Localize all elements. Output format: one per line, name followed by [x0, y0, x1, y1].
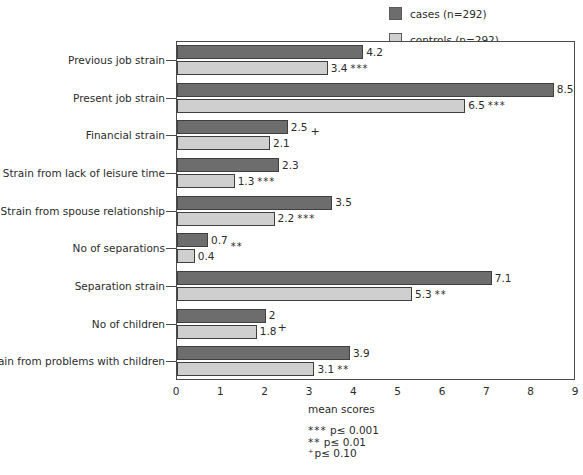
significance-marker: ***: [297, 213, 315, 224]
bar-controls[interactable]: [177, 61, 328, 75]
bar-value-controls: 6.5***: [468, 100, 506, 111]
bar-value-cases: 8.5: [557, 84, 574, 95]
figure-panel: cases (n=292) controls (n=292) Previous …: [0, 0, 583, 475]
bar-group-controls: 1.8+: [177, 325, 288, 339]
x-axis: 0123456789: [176, 381, 575, 401]
bar-controls[interactable]: [177, 136, 270, 150]
y-axis-label: Strain from spouse relationship: [0, 205, 165, 217]
chart-row: 8.56.5***: [177, 80, 574, 118]
x-axis-title: mean scores: [176, 403, 575, 415]
bar-group-controls: 0.4: [177, 249, 214, 263]
bar-group-controls: 3.4***: [177, 61, 368, 75]
footnote-text: p≤ 0.001: [327, 424, 379, 436]
bar-group-controls: 5.3**: [177, 287, 447, 301]
bar-group-controls: 2.1: [177, 136, 290, 150]
bar-cases[interactable]: [177, 83, 554, 97]
bar-value-cases: 2.3: [282, 160, 299, 171]
significance-marker: +: [278, 321, 288, 334]
bar-controls[interactable]: [177, 325, 257, 339]
bar-value-cases: 7.1: [495, 273, 512, 284]
bar-cases[interactable]: [177, 233, 208, 247]
x-axis-tick-label: 5: [394, 385, 401, 397]
bar-value-cases: 4.2: [366, 47, 383, 58]
footnote-stars: ***: [308, 424, 327, 436]
bar-cases[interactable]: [177, 309, 266, 323]
x-axis-tick-label: 3: [306, 385, 313, 397]
legend-item-cases: cases (n=292): [389, 4, 579, 23]
bar-cases[interactable]: [177, 196, 332, 210]
y-axis-label: Previous job strain: [0, 54, 165, 66]
bar-group-cases: 7.1: [177, 271, 511, 285]
footnote-stars: **: [308, 436, 321, 448]
chart-row: 2.31.3***: [177, 155, 574, 193]
bar-controls[interactable]: [177, 287, 412, 301]
y-axis-label: Present job strain: [0, 92, 165, 104]
significance-marker: ***: [488, 100, 506, 111]
x-axis-tick-label: 6: [439, 385, 446, 397]
chart-row: 2.5+2.1: [177, 117, 574, 155]
bar-group-controls: 6.5***: [177, 99, 506, 113]
footnote-line: ⁺p≤ 0.10: [308, 448, 379, 460]
bar-cases[interactable]: [177, 271, 492, 285]
x-axis-tick-label: 2: [261, 385, 268, 397]
chart-row: 3.52.2***: [177, 193, 574, 231]
y-axis-tick: [166, 60, 176, 61]
significance-marker: **: [337, 364, 349, 375]
bar-value-controls: 2.2***: [278, 213, 316, 224]
bar-value-controls: 3.4***: [331, 63, 369, 74]
bar-cases[interactable]: [177, 45, 363, 59]
legend-swatch-cases: [389, 7, 402, 20]
bar-group-controls: 2.2***: [177, 212, 315, 226]
bar-controls[interactable]: [177, 99, 465, 113]
bar-value-controls: 1.8+: [260, 326, 288, 337]
bar-group-cases: 0.7**: [177, 233, 228, 247]
y-axis-label: No of separations: [0, 242, 165, 254]
bar-controls[interactable]: [177, 174, 235, 188]
bar-group-cases: 2.3: [177, 158, 299, 172]
bar-controls[interactable]: [177, 362, 314, 376]
y-axis-label: No of children: [0, 318, 165, 330]
bar-group-cases: 4.2: [177, 45, 383, 59]
bar-group-controls: 3.1**: [177, 362, 349, 376]
y-axis-tick: [166, 173, 176, 174]
bar-group-cases: 3.9: [177, 346, 370, 360]
significance-marker: **: [435, 289, 447, 300]
bar-value-controls: 2.1: [273, 138, 290, 149]
bar-value-cases: 2: [269, 310, 276, 321]
plot-area: 4.23.4***8.56.5***2.5+2.12.31.3***3.52.2…: [176, 41, 575, 380]
bar-cases[interactable]: [177, 346, 350, 360]
bar-group-cases: 8.5: [177, 83, 574, 97]
x-axis-tick-label: 0: [173, 385, 180, 397]
y-axis-label: Strain from lack of leisure time: [0, 167, 165, 179]
y-axis-tick: [166, 135, 176, 136]
legend-label-cases: cases (n=292): [410, 8, 487, 20]
bar-value-cases: 3.9: [353, 348, 370, 359]
footnote-text: p≤ 0.01: [321, 436, 367, 448]
bar-cases[interactable]: [177, 120, 288, 134]
y-axis-label: Financial strain: [0, 129, 165, 141]
chart-row: 7.15.3**: [177, 268, 574, 306]
y-axis-label: Strain from problems with children: [0, 355, 165, 367]
x-axis-tick-label: 4: [350, 385, 357, 397]
y-axis-tick: [166, 248, 176, 249]
footnote-text: p≤ 0.10: [315, 447, 357, 459]
y-axis-tick: [166, 286, 176, 287]
y-axis-label: Separation strain: [0, 280, 165, 292]
y-axis: Previous job strainPresent job strainFin…: [0, 41, 176, 380]
significance-marker: **: [231, 241, 243, 252]
significance-marker: ***: [257, 176, 275, 187]
significance-footnotes: *** p≤ 0.001** p≤ 0.01⁺p≤ 0.10: [308, 425, 379, 460]
bar-group-controls: 1.3***: [177, 174, 275, 188]
bar-controls[interactable]: [177, 212, 275, 226]
chart-row: 0.7**0.4: [177, 230, 574, 268]
bar-cases[interactable]: [177, 158, 279, 172]
figure-caption: [8, 468, 308, 475]
y-axis-tick: [166, 98, 176, 99]
chart-row: 4.23.4***: [177, 42, 574, 80]
x-axis-tick-label: 7: [483, 385, 490, 397]
bar-controls[interactable]: [177, 249, 195, 263]
significance-marker: ***: [350, 63, 368, 74]
chart-row: 21.8+: [177, 306, 574, 344]
y-axis-tick: [166, 361, 176, 362]
x-axis-tick-label: 9: [572, 385, 579, 397]
